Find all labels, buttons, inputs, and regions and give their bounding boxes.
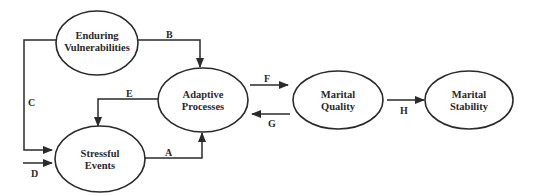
edge-a-label: A: [165, 147, 173, 158]
node-label-line1: Enduring: [75, 30, 119, 41]
node-label-line1: Adaptive: [183, 89, 224, 100]
edge-f-label: F: [264, 73, 270, 84]
edge-f: F: [250, 73, 288, 85]
edge-e-arrow: [98, 99, 158, 126]
edge-b: B: [138, 29, 200, 67]
edge-e-label: E: [126, 88, 133, 99]
edge-g: G: [252, 114, 290, 129]
edge-c-arrow: [24, 40, 57, 150]
edge-c-label: C: [28, 97, 35, 108]
edge-e: E: [98, 88, 158, 126]
node-adaptive-processes: Adaptive Processes: [158, 68, 248, 132]
edge-d: D: [23, 163, 52, 179]
node-label-line2: Stability: [450, 101, 489, 112]
edge-c: C: [24, 40, 57, 150]
node-label-line1: Marital: [321, 89, 355, 100]
node-label-line1: Stressful: [81, 148, 120, 159]
node-stressful-events: Stressful Events: [55, 126, 145, 192]
edge-h-label: H: [400, 105, 408, 116]
node-marital-stability: Marital Stability: [425, 71, 513, 129]
node-label-line2: Vulnerabilities: [64, 42, 130, 53]
node-marital-quality: Marital Quality: [293, 71, 383, 129]
edge-b-arrow: [138, 40, 200, 67]
node-enduring-vulnerabilities: Enduring Vulnerabilities: [56, 11, 138, 75]
edge-b-label: B: [166, 29, 173, 40]
edge-g-label: G: [268, 118, 276, 129]
node-label-line2: Processes: [182, 101, 224, 112]
vsa-model-diagram: C B E A D F G H Enduring Vulnerabilities: [0, 0, 536, 196]
edge-a: A: [144, 133, 202, 158]
node-label-line1: Marital: [452, 89, 486, 100]
node-label-line2: Quality: [321, 101, 356, 112]
node-label-line2: Events: [85, 160, 115, 171]
edge-h: H: [387, 100, 424, 116]
edge-a-arrow: [144, 133, 202, 158]
edge-d-label: D: [31, 168, 38, 179]
